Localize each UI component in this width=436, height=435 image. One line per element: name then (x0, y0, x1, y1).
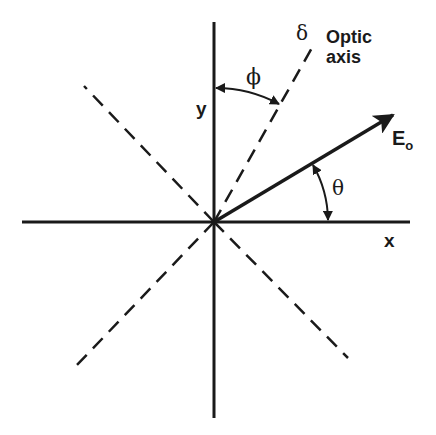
theta-angle-arc (313, 165, 328, 220)
optic-axis-label-line1: Optic (326, 27, 372, 47)
y-axis-label: y (196, 98, 207, 119)
optic-axis-line (214, 46, 313, 222)
field-vector-label-subscript: o (405, 138, 413, 153)
polarization-diagram: y x ϕ θ δ Optic axis Eo (0, 0, 436, 435)
phi-angle-arc (216, 88, 279, 104)
dashed-diagonal-lower-left (76, 222, 214, 366)
field-vector-label: Eo (392, 127, 413, 153)
optic-axis-label-line2: axis (326, 47, 361, 67)
optic-axis-line-extension (116, 222, 214, 400)
phi-label: ϕ (246, 64, 261, 89)
theta-label: θ (332, 176, 344, 200)
dashed-diagonal-lower-right (214, 222, 348, 358)
dashed-diagonal-upper-left (84, 86, 214, 222)
x-axis-label: x (384, 230, 395, 251)
delta-label: δ (296, 21, 308, 45)
field-vector-label-main: E (392, 127, 405, 149)
field-vector-arrow (214, 115, 393, 222)
